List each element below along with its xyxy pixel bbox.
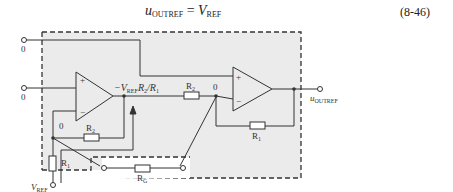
in1-label: 0: [21, 44, 26, 54]
in2-label: 0: [21, 92, 26, 102]
output-label: uOUTREF: [310, 93, 338, 104]
resistor-r1-ground: [49, 156, 56, 171]
opamp1-minus: −: [80, 107, 85, 117]
resistor-r1-feedback: [250, 122, 265, 129]
terminal-rg-left: [102, 166, 107, 171]
opamp2-minus: −: [236, 96, 241, 106]
vref-label: VREF: [31, 182, 48, 192]
resistor-rg: [135, 165, 150, 172]
opamp2-plus: +: [236, 72, 241, 82]
circuit-diagram: 0 0 + − + − 0 0 −VREFR2/R1 R2 R2 R1 R1 R…: [0, 0, 453, 192]
terminal-out: [318, 87, 323, 92]
terminal-vref: [51, 183, 56, 188]
resistor-r2-feedback: [84, 134, 99, 141]
opamp1-plus: +: [80, 75, 85, 85]
resistor-r2-series: [184, 92, 199, 99]
node-label-1: 0: [59, 121, 64, 131]
terminal-rg-right: [181, 166, 186, 171]
terminal-in1: [22, 38, 27, 43]
terminal-in2: [22, 86, 27, 91]
node-label-2: 0: [213, 82, 218, 92]
